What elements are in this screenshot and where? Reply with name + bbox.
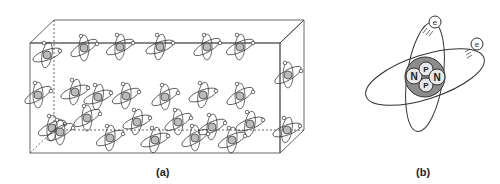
atom [69,34,100,61]
motion-lines-icon [423,28,433,36]
atom [94,124,125,151]
proton-label: P [423,65,429,74]
atom [110,82,141,109]
atom [45,118,76,145]
electron-label: e [433,18,438,27]
caption-b: (b) [416,166,430,178]
proton-label: P [423,81,429,90]
atom [31,41,63,68]
atom [23,81,54,108]
atom [104,33,135,60]
atom [224,33,255,60]
atom [273,61,304,88]
electron-label: e [475,40,480,49]
atom [36,114,67,141]
atom [144,33,176,60]
caption-a: (a) [156,166,169,178]
atom [163,108,194,135]
atom [192,33,223,60]
atom [121,108,153,135]
panel-b-atom: N P P N e e [359,16,491,134]
atom [150,83,181,110]
atom [187,81,219,108]
atom [234,110,266,137]
neutron-label: N [410,71,417,82]
atom [225,82,256,109]
neutron-label: N [433,72,440,83]
panel-a-atoms [23,33,304,153]
atom [271,116,303,143]
atom-diagram: N P P N e e [0,0,500,184]
atom [59,78,91,105]
motion-lines-icon [465,49,472,58]
atom [196,113,227,140]
atom [180,124,211,151]
atom [72,104,103,131]
